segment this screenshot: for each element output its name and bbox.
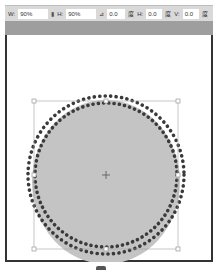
canvas-artwork — [0, 0, 217, 272]
bottom-bar-icon[interactable] — [96, 266, 106, 270]
